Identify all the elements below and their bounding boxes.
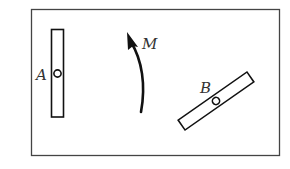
pivot-a-icon [54, 70, 61, 77]
label-a: A [34, 66, 47, 84]
label-m: M [141, 35, 158, 53]
label-b: B [199, 79, 211, 97]
bar-b [178, 72, 254, 130]
bar-a: A [34, 30, 64, 118]
mechanics-diagram: A M B [0, 0, 290, 169]
moment-arrow: M [127, 32, 158, 112]
